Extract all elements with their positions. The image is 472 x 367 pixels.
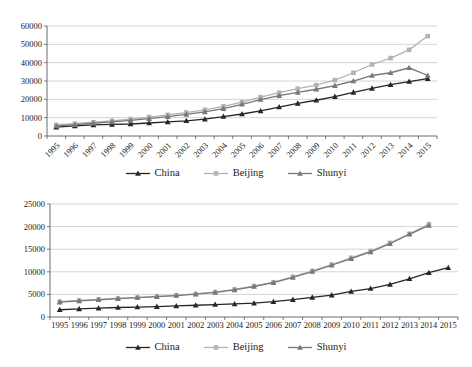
svg-text:2001: 2001 (154, 140, 173, 159)
legend-label-china: China (155, 342, 180, 353)
svg-text:2015: 2015 (414, 140, 433, 159)
shunyi-series-marker-icon (288, 169, 312, 178)
svg-text:2015: 2015 (440, 320, 457, 330)
svg-text:5000: 5000 (28, 289, 45, 299)
svg-text:2013: 2013 (377, 140, 396, 159)
legend-item-shunyi: Shunyi (288, 168, 347, 179)
svg-text:2003: 2003 (207, 320, 224, 330)
svg-text:1998: 1998 (98, 140, 117, 159)
svg-text:2000: 2000 (148, 320, 165, 330)
svg-text:20000: 20000 (24, 222, 45, 232)
svg-text:2013: 2013 (401, 320, 418, 330)
svg-text:2004: 2004 (210, 140, 230, 160)
legend-label-china: China (155, 168, 180, 179)
svg-text:50000: 50000 (21, 39, 42, 49)
svg-text:20000: 20000 (21, 94, 42, 104)
svg-text:2008: 2008 (304, 320, 321, 330)
china-series-marker-icon (126, 169, 150, 178)
svg-text:2012: 2012 (382, 320, 399, 330)
legend-item-china: China (126, 342, 180, 353)
svg-text:10000: 10000 (21, 113, 42, 123)
svg-text:30000: 30000 (21, 76, 42, 86)
svg-text:2014: 2014 (420, 320, 438, 330)
page: { "page": { "background": "#ffffff" }, "… (0, 0, 472, 367)
legend-item-beijing: Beijing (204, 342, 264, 353)
svg-text:2005: 2005 (228, 140, 247, 159)
svg-text:2012: 2012 (358, 140, 377, 159)
legend-item-shunyi: Shunyi (288, 342, 347, 353)
china-series-marker-icon (126, 343, 150, 352)
svg-text:60000: 60000 (21, 21, 42, 31)
svg-text:1997: 1997 (80, 140, 99, 159)
svg-text:2002: 2002 (173, 140, 192, 159)
svg-text:0: 0 (38, 131, 42, 141)
top-chart-legend: China Beijing Shunyi (0, 166, 472, 180)
svg-text:2014: 2014 (395, 140, 415, 160)
svg-text:1995: 1995 (43, 140, 62, 159)
beijing-series-marker-icon (204, 169, 228, 178)
svg-text:2008: 2008 (284, 140, 303, 159)
legend-item-beijing: Beijing (204, 168, 264, 179)
svg-text:2006: 2006 (265, 320, 282, 330)
svg-text:2005: 2005 (246, 320, 263, 330)
legend-label-shunyi: Shunyi (317, 342, 347, 353)
svg-text:0: 0 (41, 312, 45, 322)
svg-text:2009: 2009 (323, 320, 340, 330)
svg-text:2007: 2007 (284, 320, 301, 330)
svg-text:2009: 2009 (303, 140, 322, 159)
svg-text:10000: 10000 (24, 267, 45, 277)
legend-label-shunyi: Shunyi (317, 168, 347, 179)
svg-text:2000: 2000 (135, 140, 154, 159)
svg-text:2002: 2002 (187, 320, 204, 330)
bottom-chart-plot: 0500010000150002000025000199519961997199… (0, 183, 472, 335)
svg-text:1997: 1997 (90, 320, 107, 330)
svg-text:2011: 2011 (340, 140, 359, 159)
svg-text:1996: 1996 (71, 320, 88, 330)
shunyi-series-marker-icon (288, 343, 312, 352)
svg-text:2007: 2007 (265, 140, 284, 159)
top-chart-plot: 0100002000030000400005000060000199519961… (0, 0, 472, 166)
bottom-chart-legend: China Beijing Shunyi (0, 340, 472, 354)
svg-text:1998: 1998 (110, 320, 127, 330)
legend-label-beijing: Beijing (233, 342, 264, 353)
svg-text:2010: 2010 (343, 320, 360, 330)
svg-text:1999: 1999 (117, 140, 136, 159)
svg-text:2004: 2004 (226, 320, 244, 330)
beijing-series-marker-icon (204, 343, 228, 352)
svg-text:2001: 2001 (168, 320, 185, 330)
legend-item-china: China (126, 168, 180, 179)
svg-text:40000: 40000 (21, 58, 42, 68)
svg-text:2003: 2003 (191, 140, 210, 159)
legend-label-beijing: Beijing (233, 168, 264, 179)
svg-text:2010: 2010 (321, 140, 340, 159)
svg-text:2006: 2006 (247, 140, 266, 159)
svg-text:1999: 1999 (129, 320, 146, 330)
svg-text:1996: 1996 (61, 140, 80, 159)
svg-text:15000: 15000 (24, 244, 45, 254)
svg-text:25000: 25000 (24, 199, 45, 209)
svg-text:2011: 2011 (362, 320, 379, 330)
svg-text:1995: 1995 (51, 320, 68, 330)
